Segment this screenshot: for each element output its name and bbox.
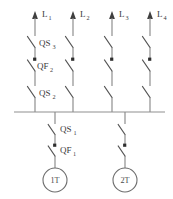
label-qf1: QF bbox=[60, 145, 72, 155]
feeder-4-arrow-icon bbox=[147, 11, 153, 19]
single-line-diagram: L 1 L 2 L 3 L 4 QS 3 QF 2 QS 2 QS 1 QF 1… bbox=[0, 0, 173, 199]
feeder-1-disconnector-qs2-blade[interactable] bbox=[28, 87, 36, 98]
label-qs2-sub: 2 bbox=[53, 93, 56, 100]
feeder-4-disconnector-qs3-blade[interactable] bbox=[143, 37, 151, 48]
label-qf1-sub: 1 bbox=[73, 150, 76, 157]
label-l2-sub: 2 bbox=[87, 14, 90, 21]
feeder-2-disconnector-qs2-blade[interactable] bbox=[66, 87, 74, 98]
incomer-2-breaker-qf1-mark-icon bbox=[123, 144, 126, 147]
incomer-2-breaker-qf1-blade[interactable] bbox=[118, 146, 125, 156]
label-l4-sub: 4 bbox=[164, 14, 167, 21]
label-qf2: QF bbox=[37, 61, 49, 71]
label-qs1: QS bbox=[60, 124, 72, 134]
feeder-2-breaker-qf2-mark-icon bbox=[71, 58, 74, 61]
feeder-3-arrow-icon bbox=[109, 11, 115, 19]
feeder-4[interactable] bbox=[143, 11, 153, 112]
label-qf2-sub: 2 bbox=[50, 66, 53, 73]
feeder-3-disconnector-qs2-blade[interactable] bbox=[105, 87, 113, 98]
feeder-1-breaker-qf2-mark-icon bbox=[33, 58, 36, 61]
feeder-1-breaker-qf2-blade[interactable] bbox=[28, 60, 36, 71]
feeder-3-disconnector-qs3-blade[interactable] bbox=[105, 37, 113, 48]
incomer-1-breaker-qf1-mark-icon bbox=[53, 144, 56, 147]
label-qs3: QS bbox=[39, 38, 51, 48]
incomer-1-breaker-qf1-blade[interactable] bbox=[48, 146, 55, 156]
label-qs2: QS bbox=[39, 88, 51, 98]
label-qs3-sub: 3 bbox=[53, 43, 56, 50]
feeder-1-arrow-icon bbox=[32, 11, 38, 19]
feeder-3-breaker-qf2-mark-icon bbox=[110, 58, 113, 61]
feeder-2-disconnector-qs3-blade[interactable] bbox=[66, 37, 74, 48]
feeder-3[interactable] bbox=[105, 11, 115, 112]
feeder-1-disconnector-qs3-blade[interactable] bbox=[28, 37, 36, 48]
label-l3: L bbox=[119, 9, 125, 19]
incomer-1-disconnector-qs1-blade[interactable] bbox=[48, 125, 55, 135]
diagram-canvas: L 1 L 2 L 3 L 4 QS 3 QF 2 QS 2 QS 1 QF 1… bbox=[0, 0, 173, 199]
feeder-3-breaker-qf2-blade[interactable] bbox=[105, 60, 113, 71]
label-l1: L bbox=[42, 9, 48, 19]
feeder-4-breaker-qf2-blade[interactable] bbox=[143, 60, 151, 71]
label-qs1-sub: 1 bbox=[74, 129, 77, 136]
label-transformer-1t: 1T bbox=[50, 176, 59, 185]
feeder-2-arrow-icon bbox=[70, 11, 76, 19]
label-transformer-2t: 2T bbox=[120, 176, 129, 185]
feeder-2-breaker-qf2-blade[interactable] bbox=[66, 60, 74, 71]
label-l4: L bbox=[157, 9, 163, 19]
label-l1-sub: 1 bbox=[49, 14, 52, 21]
feeder-2[interactable] bbox=[66, 11, 76, 112]
feeder-4-breaker-qf2-mark-icon bbox=[148, 58, 151, 61]
label-l3-sub: 3 bbox=[126, 14, 129, 21]
incomer-2-disconnector-qs1-blade[interactable] bbox=[118, 125, 125, 135]
feeder-4-disconnector-qs2-blade[interactable] bbox=[143, 87, 151, 98]
label-l2: L bbox=[80, 9, 86, 19]
